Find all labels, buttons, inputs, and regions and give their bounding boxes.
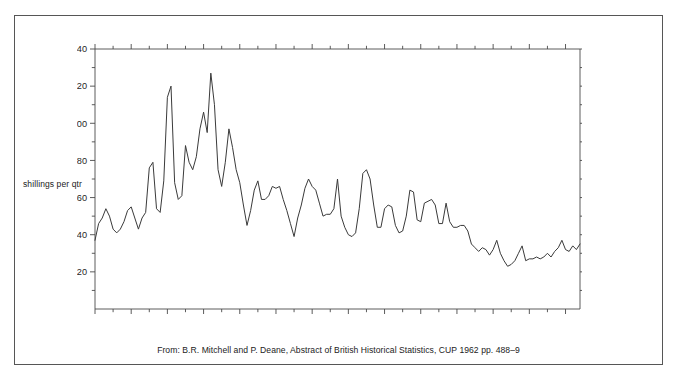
x-tick-label-1850: 50 xyxy=(343,318,353,320)
x-tick-label-1910: 10 xyxy=(560,318,570,320)
chart-plot-area: 2040608010012014017809018001020304050607… xyxy=(77,43,582,320)
x-tick-label-1890: 90 xyxy=(488,318,498,320)
figure-caption: From: B.R. Mitchell and P. Deane, Abstra… xyxy=(15,345,662,355)
y-tick-label-80: 80 xyxy=(77,156,87,166)
y-tick-label-140: 140 xyxy=(77,44,87,54)
data-series-line xyxy=(95,73,580,266)
x-tick-label-1830: 30 xyxy=(271,318,281,320)
x-tick-label-1870: 70 xyxy=(416,318,426,320)
y-tick-label-60: 60 xyxy=(77,193,87,203)
x-tick-label-1840: 40 xyxy=(307,318,317,320)
x-tick-label-1820: 20 xyxy=(235,318,245,320)
figure-frame: shillings per qtr 2040608010012014017809… xyxy=(14,15,663,365)
x-tick-label-1790: 90 xyxy=(126,318,136,320)
y-tick-label-20: 20 xyxy=(77,267,87,277)
y-tick-label-120: 120 xyxy=(77,81,87,91)
x-tick-label-1860: 60 xyxy=(379,318,389,320)
x-tick-label-1800: 1800 xyxy=(157,318,177,320)
x-tick-label-1900: 1900 xyxy=(519,318,539,320)
wheat-price-line-chart: 2040608010012014017809018001020304050607… xyxy=(77,43,582,320)
y-tick-label-40: 40 xyxy=(77,230,87,240)
x-tick-label-1780: 1780 xyxy=(85,318,105,320)
x-tick-label-1810: 10 xyxy=(198,318,208,320)
y-tick-label-100: 100 xyxy=(77,119,87,129)
x-tick-label-1880: 80 xyxy=(452,318,462,320)
